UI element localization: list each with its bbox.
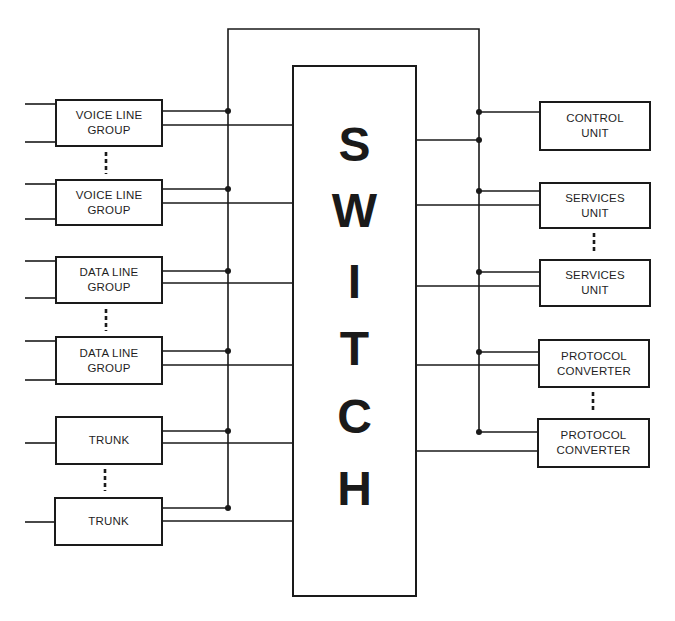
- block-label: DATA LINE GROUP: [80, 346, 139, 376]
- block-label: TRUNK: [89, 433, 130, 448]
- switch-letter: C: [294, 393, 415, 441]
- data-line-group-1: DATA LINE GROUP: [55, 256, 163, 304]
- block-label: DATA LINE GROUP: [80, 265, 139, 295]
- protocol-converter-2: PROTOCOL CONVERTER: [537, 418, 650, 468]
- switch-letter: W: [294, 187, 415, 235]
- data-line-group-2: DATA LINE GROUP: [55, 336, 163, 385]
- voice-line-group-1: VOICE LINE GROUP: [55, 99, 163, 147]
- switch-letter: H: [294, 465, 415, 513]
- block-label: CONTROL UNIT: [566, 111, 624, 141]
- block-label: TRUNK: [88, 514, 129, 529]
- block-label: PROTOCOL CONVERTER: [557, 349, 631, 379]
- block-label: VOICE LINE GROUP: [76, 108, 143, 138]
- services-unit-1: SERVICES UNIT: [539, 182, 651, 229]
- switch-block: S W I T C H: [292, 65, 417, 597]
- control-unit: CONTROL UNIT: [539, 101, 651, 151]
- block-label: SERVICES UNIT: [565, 191, 625, 221]
- block-label: VOICE LINE GROUP: [76, 188, 143, 218]
- switch-letter: I: [294, 258, 415, 306]
- protocol-converter-1: PROTOCOL CONVERTER: [538, 339, 650, 388]
- switch-letter: T: [294, 325, 415, 373]
- block-label: PROTOCOL CONVERTER: [557, 428, 631, 458]
- trunk-1: TRUNK: [55, 416, 163, 465]
- switch-letter: S: [294, 121, 415, 169]
- voice-line-group-2: VOICE LINE GROUP: [55, 179, 163, 226]
- block-label: SERVICES UNIT: [565, 268, 625, 298]
- trunk-2: TRUNK: [54, 497, 163, 546]
- services-unit-2: SERVICES UNIT: [539, 259, 651, 307]
